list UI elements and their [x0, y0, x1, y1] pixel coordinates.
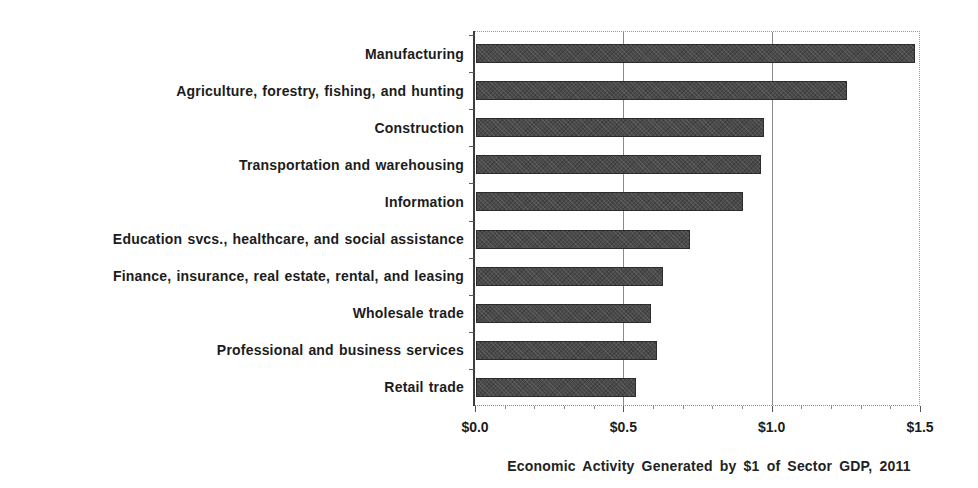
category-label: Retail trade	[0, 378, 464, 396]
y-axis-tick	[469, 221, 474, 222]
x-axis-minor-tick	[564, 406, 565, 409]
x-axis-caption: Economic Activity Generated by $1 of Sec…	[440, 458, 978, 474]
x-axis-tick-label: $0.0	[445, 419, 505, 435]
x-axis-minor-tick	[683, 406, 684, 409]
category-label: Agriculture, forestry, fishing, and hunt…	[0, 82, 464, 100]
x-axis-major-tick	[772, 406, 773, 412]
category-label: Professional and business services	[0, 341, 464, 359]
bar	[476, 341, 657, 360]
y-axis-tick	[469, 295, 474, 296]
y-axis-line	[473, 31, 475, 406]
y-axis-tick	[469, 369, 474, 370]
x-axis-minor-tick	[890, 406, 891, 409]
bar	[476, 378, 636, 397]
x-axis-minor-tick	[653, 406, 654, 409]
y-axis-tick	[469, 35, 474, 36]
x-axis-major-tick	[475, 406, 476, 412]
category-label: Transportation and warehousing	[0, 156, 464, 174]
y-axis-tick	[469, 146, 474, 147]
bar-chart: Economic Activity Generated by $1 of Sec…	[0, 0, 978, 488]
x-axis-minor-tick	[831, 406, 832, 409]
category-label: Education svcs., healthcare, and social …	[0, 230, 464, 248]
x-axis-minor-tick	[534, 406, 535, 409]
bar	[476, 155, 761, 174]
y-axis-tick	[469, 183, 474, 184]
y-axis-tick	[469, 72, 474, 73]
category-label: Information	[0, 193, 464, 211]
bar	[476, 192, 743, 211]
x-axis-minor-tick	[505, 406, 506, 409]
x-axis-tick-label: $1.0	[742, 419, 802, 435]
x-axis-major-tick	[623, 406, 624, 412]
x-axis-minor-tick	[742, 406, 743, 409]
x-axis-tick-label: $0.5	[593, 419, 653, 435]
bar	[476, 44, 915, 63]
bar	[476, 304, 651, 323]
x-axis-minor-tick	[712, 406, 713, 409]
y-axis-tick	[469, 332, 474, 333]
x-axis-major-tick	[920, 406, 921, 412]
category-label: Manufacturing	[0, 45, 464, 63]
bar	[476, 81, 847, 100]
y-axis-tick	[469, 258, 474, 259]
x-axis-minor-tick	[861, 406, 862, 409]
y-axis-tick	[469, 109, 474, 110]
category-label: Construction	[0, 119, 464, 137]
category-label: Wholesale trade	[0, 304, 464, 322]
bar	[476, 118, 764, 137]
x-axis-minor-tick	[801, 406, 802, 409]
bar	[476, 267, 663, 286]
bar	[476, 230, 690, 249]
x-axis-tick-label: $1.5	[890, 419, 950, 435]
category-label: Finance, insurance, real estate, rental,…	[0, 267, 464, 285]
x-axis-minor-tick	[594, 406, 595, 409]
